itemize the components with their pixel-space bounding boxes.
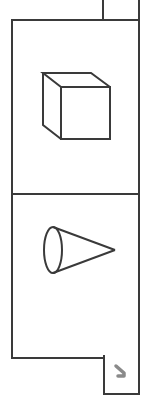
palette-item-cube[interactable] bbox=[13, 21, 138, 193]
palette-top-tab[interactable] bbox=[102, 0, 140, 21]
resize-handle[interactable] bbox=[103, 355, 140, 395]
cube-icon bbox=[13, 21, 138, 193]
resize-arrow-icon bbox=[112, 363, 132, 383]
palette-item-cone[interactable] bbox=[13, 195, 138, 357]
cone-icon bbox=[13, 195, 138, 357]
shape-palette bbox=[11, 19, 140, 359]
